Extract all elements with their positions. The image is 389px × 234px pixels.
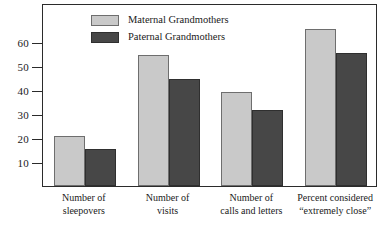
bar-maternal [221, 92, 252, 186]
x-axis-category-label-line: calls and letters [210, 204, 294, 217]
legend-label: Maternal Grandmothers [128, 14, 229, 26]
legend-item: Maternal Grandmothers [91, 13, 261, 27]
y-axis-tick-mark [32, 67, 42, 68]
plot-frame: Maternal GrandmothersPaternal Grandmothe… [42, 4, 377, 187]
x-axis-category-label-line: sleepovers [42, 204, 126, 217]
bar-chart: 605040302010 Maternal GrandmothersPatern… [0, 0, 389, 234]
legend-label: Paternal Grandmothers [128, 31, 225, 43]
y-axis-tick-mark [32, 163, 42, 164]
bar-maternal [305, 29, 336, 186]
chart-legend: Maternal GrandmothersPaternal Grandmothe… [91, 13, 261, 47]
x-axis-labels: Number ofsleepoversNumber ofvisitsNumber… [42, 191, 377, 234]
x-axis-category-label-line: “extremely close” [293, 204, 377, 217]
x-axis-category-label: Number ofsleepovers [42, 191, 126, 217]
bar-maternal [138, 55, 169, 186]
y-axis-tick-label: 30 [18, 110, 32, 121]
bar-maternal [54, 136, 85, 186]
bar-paternal [252, 110, 283, 186]
x-axis-category-label: Number ofcalls and letters [210, 191, 294, 217]
y-axis-tick-mark [32, 43, 42, 44]
y-axis-tick-mark [32, 91, 42, 92]
y-axis: 605040302010 [0, 0, 42, 188]
bar-paternal [169, 79, 200, 186]
y-axis-tick-mark [32, 139, 42, 140]
bar-paternal [336, 53, 367, 186]
legend-swatch-maternal [91, 15, 119, 26]
bar-paternal [85, 149, 116, 186]
y-axis-tick-label: 60 [18, 38, 32, 49]
x-axis-category-label: Number ofvisits [126, 191, 210, 217]
x-axis-category-label-line: Percent considered [293, 191, 377, 204]
x-axis-category-label: Percent considered“extremely close” [293, 191, 377, 217]
y-axis-tick-label: 20 [18, 134, 32, 145]
y-axis-tick-label: 10 [18, 158, 32, 169]
x-axis-category-label-line: visits [126, 204, 210, 217]
x-axis-category-label-line: Number of [126, 191, 210, 204]
x-axis-category-label-line: Number of [42, 191, 126, 204]
legend-item: Paternal Grandmothers [91, 30, 261, 44]
bar-group [305, 5, 367, 186]
y-axis-tick-label: 50 [18, 62, 32, 73]
y-axis-tick-mark [32, 115, 42, 116]
x-axis-category-label-line: Number of [210, 191, 294, 204]
y-axis-tick-label: 40 [18, 86, 32, 97]
legend-swatch-paternal [91, 32, 119, 43]
